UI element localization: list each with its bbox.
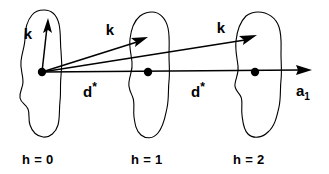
d-star-2-base: d xyxy=(191,83,200,100)
k-vector-h1-arrowhead xyxy=(131,37,148,47)
k-vector-h0-arrowhead xyxy=(43,18,52,33)
reciprocal-lattice-diagram: k k k d* d* a1 h = 0 h = 1 h = 2 xyxy=(0,0,329,174)
d-star-label-2: d* xyxy=(191,80,205,100)
axis-a1-arrowhead xyxy=(296,65,312,75)
lattice-point-h2 xyxy=(251,68,259,76)
layer-caption-h2: h = 2 xyxy=(233,152,265,167)
d-star-1-superscript: * xyxy=(92,80,97,94)
d-star-label-1: d* xyxy=(83,80,97,100)
k-label-h2: k xyxy=(217,19,226,36)
layer-caption-h1: h = 1 xyxy=(131,152,163,167)
layer-caption-h0: h = 0 xyxy=(22,152,54,167)
axis-a1-label: a1 xyxy=(296,82,310,102)
d-star-1-base: d xyxy=(83,83,92,100)
k-vector-h1-line xyxy=(42,42,137,72)
axis-a1-subscript: 1 xyxy=(304,91,310,102)
figure-root: k k k d* d* a1 h = 0 h = 1 h = 2 xyxy=(0,0,329,174)
d-star-2-superscript: * xyxy=(200,80,205,94)
lattice-point-h0 xyxy=(38,68,46,76)
k-vector-h2-line xyxy=(42,40,245,72)
k-label-h0: k xyxy=(24,25,33,42)
k-label-h1: k xyxy=(106,21,115,38)
k-vector-h0-line xyxy=(42,27,47,72)
axis-a1-line xyxy=(42,70,300,72)
lattice-point-h1 xyxy=(144,68,152,76)
